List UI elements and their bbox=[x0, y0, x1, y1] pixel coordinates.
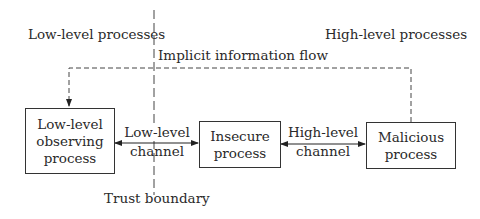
node-label-line: process bbox=[210, 145, 270, 162]
node-label-line: observing bbox=[36, 133, 103, 150]
diagram: Low-level processes High-level processes… bbox=[0, 0, 480, 219]
node-label-line: Insecure bbox=[210, 128, 270, 145]
high-level-channel-label: High-level channel bbox=[283, 124, 363, 160]
insecure-process-node: Insecure process bbox=[199, 121, 281, 168]
low-level-observing-process-node: Low-level observing process bbox=[25, 108, 115, 174]
implicit-flow-path bbox=[69, 68, 411, 122]
edge-label-line: Low-level bbox=[124, 124, 189, 141]
node-label-line: Malicious bbox=[378, 129, 444, 146]
low-level-channel-label: Low-level channel bbox=[117, 124, 197, 160]
malicious-process-node: Malicious process bbox=[366, 122, 456, 169]
high-level-region-label: High-level processes bbox=[325, 26, 467, 43]
node-label-line: Low-level bbox=[36, 116, 103, 133]
edge-label-line: High-level bbox=[283, 124, 363, 141]
trust-boundary-label: Trust boundary bbox=[104, 190, 210, 207]
node-label-line: process bbox=[378, 146, 444, 163]
node-label-line: process bbox=[36, 150, 103, 167]
edge-label-line: channel bbox=[117, 143, 197, 160]
implicit-flow-label: Implicit information flow bbox=[158, 47, 328, 64]
low-level-region-label: Low-level processes bbox=[28, 26, 165, 43]
edge-label-line: channel bbox=[283, 143, 363, 160]
